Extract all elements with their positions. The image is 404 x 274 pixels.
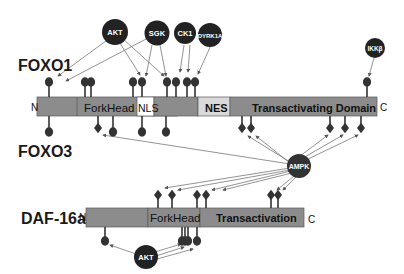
foxo1-n-terminus: N [31, 102, 38, 113]
foxo1-phosphosites [46, 78, 371, 97]
kinase-ck1: CK1 [174, 22, 196, 44]
svg-text:AMPK: AMPK [289, 163, 310, 170]
daf16a-protein-bar: N C ForkHead Transactivation [79, 208, 315, 227]
kinase-ampk: AMPK [287, 154, 311, 178]
kinase-ikkb: IKKβ [365, 38, 385, 58]
nls-label: NLS [138, 102, 158, 114]
forkhead-label: ForkHead [84, 102, 135, 114]
foxo1-label: FOXO1 [18, 57, 72, 74]
daf16a-top-phosphosites [155, 191, 281, 208]
daf16a-label: DAF-16a [21, 210, 86, 227]
foxo3-phosphosites [46, 116, 364, 136]
daf16a-n-terminus: N [79, 212, 86, 223]
foxo-protein-bar: N C ForkHead NLS NES Transactivating Dom… [31, 97, 387, 116]
foxo-phosphorylation-diagram: N C ForkHead NLS NES Transactivating Dom… [0, 0, 404, 274]
svg-text:CK1: CK1 [177, 29, 192, 38]
daf16-transactivation-label: Transactivation [216, 212, 297, 224]
svg-text:AKT: AKT [107, 28, 123, 37]
nes-label: NES [205, 102, 228, 114]
daf16-forkhead-label: ForkHead [150, 212, 201, 224]
kinase-dyrk1a: DYRK1A [198, 23, 223, 47]
daf16a-c-terminus: C [308, 214, 315, 225]
kinase-akt-bottom: AKT [134, 245, 158, 269]
foxo1-c-terminus: C [380, 102, 387, 113]
kinase-akt-top: AKT [102, 19, 128, 45]
transactivating-domain-label: Transactivating Domain [252, 102, 376, 114]
daf16a-bottom-phosphosites [102, 227, 201, 245]
foxo3-label: FOXO3 [18, 143, 72, 160]
svg-text:SGK: SGK [149, 29, 166, 38]
ampk-arrows [103, 135, 358, 190]
svg-text:AKT: AKT [138, 253, 154, 262]
kinase-sgk: SGK [145, 21, 170, 46]
svg-text:DYRK1A: DYRK1A [198, 33, 223, 39]
svg-text:IKKβ: IKKβ [367, 45, 382, 53]
